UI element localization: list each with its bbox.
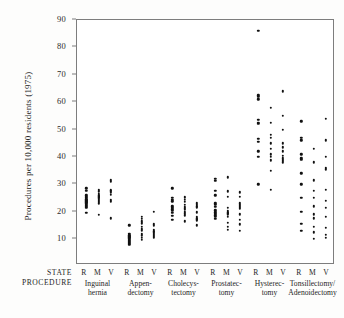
data-point (195, 206, 197, 208)
data-point (257, 98, 259, 100)
data-point (300, 230, 302, 232)
data-point (140, 222, 142, 224)
data-point (195, 211, 197, 213)
data-point (109, 217, 111, 219)
x-group-2: RMVAppen- dectomy (119, 264, 162, 297)
data-point (97, 214, 99, 216)
data-point (281, 115, 283, 117)
data-point (128, 224, 130, 226)
x-state-label-r: R (206, 268, 220, 278)
data-point (300, 223, 302, 225)
data-point (312, 179, 314, 181)
x-row-headers: STATE PROCEDURE (0, 268, 72, 287)
data-point (109, 193, 111, 195)
data-point (269, 147, 271, 149)
data-point (214, 194, 216, 196)
plot-frame (76, 19, 334, 264)
x-state-row: RMV (248, 264, 291, 278)
x-state-label-v: V (319, 268, 333, 278)
data-point (257, 141, 259, 143)
x-row-header-state: STATE (0, 268, 72, 278)
data-point (300, 158, 302, 160)
data-point (183, 214, 185, 216)
data-point (226, 216, 228, 218)
data-point (214, 190, 216, 192)
x-state-label-r: R (77, 268, 91, 278)
data-point (238, 196, 240, 198)
data-point (257, 30, 259, 32)
data-point (226, 196, 228, 198)
y-tick-label: 20 (57, 206, 66, 215)
x-state-label-m: M (134, 268, 148, 278)
x-state-row: RMV (119, 264, 162, 278)
data-point (269, 169, 271, 171)
data-point (214, 205, 216, 207)
data-point (300, 210, 302, 212)
data-point (312, 217, 314, 219)
data-point (300, 139, 302, 141)
y-axis-title: Procedures per 10,000 residents (1975) (23, 46, 33, 246)
data-point (171, 215, 173, 217)
data-point (214, 218, 216, 220)
x-group-3: RMVCholecys- tectomy (162, 264, 205, 297)
x-procedure-label: Appen- dectomy (119, 278, 162, 297)
data-point (281, 90, 283, 92)
data-point (300, 120, 302, 122)
data-point (171, 200, 173, 202)
data-point (324, 199, 326, 201)
y-axis: Procedures per 10,000 residents (1975) 1… (0, 0, 76, 290)
data-point (269, 189, 271, 191)
x-state-label-m: M (91, 268, 105, 278)
x-state-row: RMV (291, 264, 334, 278)
data-point (238, 223, 240, 225)
x-procedure-label: Cholecys- tectomy (162, 278, 205, 297)
data-point (238, 230, 240, 232)
data-point (269, 137, 271, 139)
data-point (152, 237, 154, 239)
data-point (140, 239, 142, 241)
y-tick-label: 50 (57, 124, 66, 133)
x-state-row: RMV (205, 264, 248, 278)
x-row-header-procedure: PROCEDURE (0, 278, 72, 288)
x-state-label-m: M (177, 268, 191, 278)
data-point (324, 227, 326, 229)
x-state-label-v: V (190, 268, 204, 278)
data-point (281, 146, 283, 148)
data-point (312, 238, 314, 240)
data-point (140, 229, 142, 231)
data-point (97, 202, 99, 204)
data-point (152, 210, 154, 212)
x-state-label-v: V (147, 268, 161, 278)
x-state-label-r: R (120, 268, 134, 278)
data-point (300, 183, 302, 185)
data-point (324, 206, 326, 208)
data-point (226, 228, 228, 230)
data-point (324, 216, 326, 218)
data-point (109, 180, 111, 182)
x-group-4: RMVProstatec- tomy (205, 264, 248, 297)
x-procedure-label: Prostatec- tomy (205, 278, 248, 297)
data-point (171, 187, 173, 189)
x-axis: STATE PROCEDURE RMVInguinal herniaRMVApp… (0, 264, 344, 318)
y-tick-label: 90 (57, 15, 66, 24)
data-point (238, 208, 240, 210)
y-tick-label: 70 (57, 70, 66, 79)
x-group-1: RMVInguinal hernia (76, 264, 119, 297)
data-point (281, 128, 283, 130)
data-point (171, 219, 173, 221)
data-point (312, 231, 314, 233)
data-point (238, 219, 240, 221)
data-point (324, 139, 326, 141)
data-point (324, 117, 326, 119)
data-point (257, 183, 259, 185)
data-point (312, 197, 314, 199)
data-point (300, 153, 302, 155)
data-point (226, 176, 228, 178)
data-point (324, 236, 326, 238)
data-point (226, 221, 228, 223)
y-tick-label: 10 (57, 234, 66, 243)
x-state-label-m: M (220, 268, 234, 278)
data-point (281, 142, 283, 144)
y-tick-label: 30 (57, 179, 66, 188)
y-tick-label: 40 (57, 152, 66, 161)
